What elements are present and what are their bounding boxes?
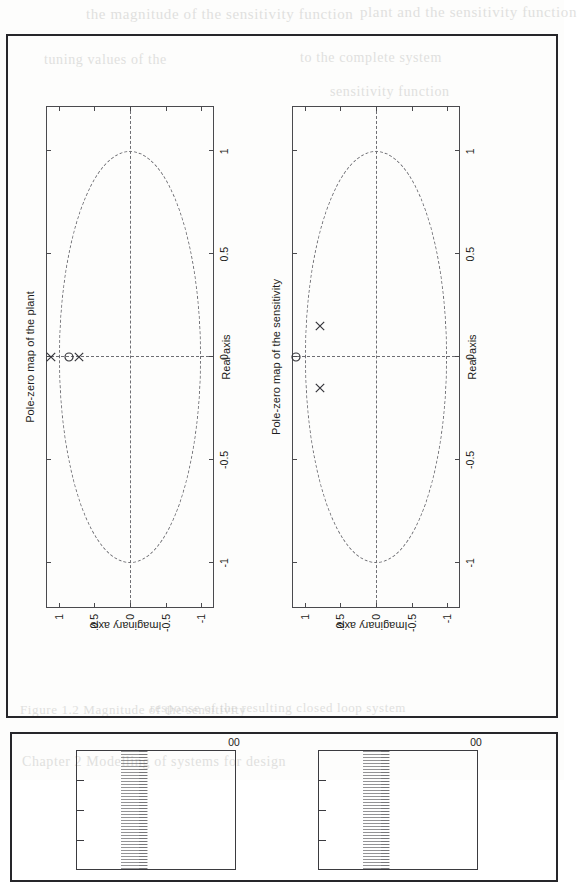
x-axis-tick-label: 1: [464, 148, 476, 154]
y-axis-tick: [376, 603, 377, 608]
x-axis-tick-label: 1: [218, 148, 230, 154]
y-axis-tick-label: -0.5: [160, 614, 172, 642]
x-axis-tick: [455, 150, 460, 151]
y-axis-tick: [376, 106, 377, 111]
y-axis-tick-label: 0.5: [334, 614, 346, 642]
x-axis-tick: [46, 562, 51, 563]
spectrum-trace-right-tail: [381, 751, 390, 869]
axis-tick: [77, 780, 84, 781]
y-axis-tick: [59, 106, 60, 111]
bleed-text-0: the magnitude of the sensitivity functio…: [86, 6, 353, 23]
x-axis-tick: [292, 562, 297, 563]
y-axis-tick: [447, 603, 448, 608]
zero-marker: [63, 352, 74, 363]
x-axis-tick-label: -0.5: [218, 451, 230, 469]
pole-marker: [314, 321, 325, 332]
x-axis-tick: [46, 253, 51, 254]
y-axis-tick: [340, 106, 341, 111]
plot-pole-zero-map-plant: Pole-zero map of the plant Real axis Ima…: [28, 82, 238, 650]
axis-tick: [319, 780, 326, 781]
y-axis-tick: [201, 603, 202, 608]
x-axis-tick: [46, 150, 51, 151]
bleed-text-1: plant and the sensitivity function: [360, 4, 577, 21]
axis-tick-label-spectrum-left: 00: [228, 736, 240, 748]
x-axis-tick: [209, 356, 214, 357]
y-axis-tick-label: -0.5: [406, 614, 418, 642]
y-axis-tick: [94, 106, 95, 111]
y-axis-tick: [166, 603, 167, 608]
y-axis-tick: [59, 603, 60, 608]
plot-title-sensitivity: Pole-zero map of the sensitivity: [270, 106, 282, 608]
x-axis-tick: [292, 459, 297, 460]
y-axis-tick: [340, 603, 341, 608]
plot-spectrum-right: 00: [302, 730, 492, 880]
y-axis-tick-label: 1: [299, 614, 311, 642]
x-axis-tick-label: 0: [464, 354, 476, 360]
y-axis-tick: [412, 603, 413, 608]
axis-tick: [319, 840, 326, 841]
axis-tick: [77, 810, 84, 811]
plot-spectrum-left: 00: [60, 730, 250, 880]
plot-inner-spectrum-left: 00: [60, 730, 250, 880]
axis-tick-label-spectrum-right: 00: [470, 736, 482, 748]
x-axis-tick: [455, 562, 460, 563]
plot-inner-plant: Pole-zero map of the plant Real axis Ima…: [28, 82, 238, 650]
x-axis-tick: [455, 459, 460, 460]
y-axis-tick: [447, 106, 448, 111]
pole-marker: [45, 352, 56, 363]
x-axis-tick: [209, 562, 214, 563]
y-axis-tick-label: -1: [195, 614, 207, 642]
x-axis-tick: [46, 459, 51, 460]
plot-inner-sensitivity: Pole-zero map of the sensitivity Real ax…: [274, 82, 484, 650]
y-axis-tick: [130, 603, 131, 608]
x-axis-tick-label: -1: [218, 558, 230, 567]
y-axis-tick-label: 0.5: [88, 614, 100, 642]
axes-spectrum-right: [318, 750, 478, 870]
x-axis-tick-label: -1: [464, 558, 476, 567]
x-axis-tick-label: 0.5: [218, 247, 230, 262]
x-axis-tick: [455, 253, 460, 254]
pole-marker: [73, 352, 84, 363]
x-axis-tick: [292, 150, 297, 151]
x-axis-tick: [209, 253, 214, 254]
y-axis-tick: [166, 106, 167, 111]
y-axis-tick: [412, 106, 413, 111]
x-axis-tick: [455, 356, 460, 357]
x-axis-tick-label: 0: [218, 354, 230, 360]
y-axis-tick-label: 1: [53, 614, 65, 642]
plot-pole-zero-map-sensitivity: Pole-zero map of the sensitivity Real ax…: [274, 82, 484, 650]
y-axis-tick: [94, 603, 95, 608]
y-axis-tick: [130, 106, 131, 111]
y-axis-tick: [201, 106, 202, 111]
plot-title-plant: Pole-zero map of the plant: [24, 106, 36, 608]
plot-inner-spectrum-right: 00: [302, 730, 492, 880]
y-axis-tick-label: 0: [124, 614, 136, 642]
x-axis-tick: [292, 253, 297, 254]
pole-marker: [314, 382, 325, 393]
x-axis-tick-label: 0.5: [464, 247, 476, 262]
x-axis-tick: [209, 150, 214, 151]
unit-circle: [305, 151, 447, 562]
axes-spectrum-left: [76, 750, 236, 870]
y-axis-tick: [305, 603, 306, 608]
x-axis-tick: [209, 459, 214, 460]
x-axis-tick-label: -0.5: [464, 451, 476, 469]
y-axis-tick-label: 0: [370, 614, 382, 642]
zero-marker: [291, 352, 302, 363]
spectrum-trace-left-tail: [139, 751, 148, 869]
y-axis-tick: [305, 106, 306, 111]
axis-tick: [319, 810, 326, 811]
axis-tick: [77, 840, 84, 841]
y-axis-tick-label: -1: [441, 614, 453, 642]
